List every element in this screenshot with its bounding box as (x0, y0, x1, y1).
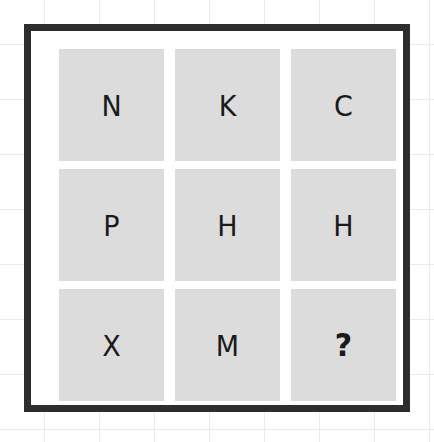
cell-r3c3-missing[interactable]: ? (291, 289, 396, 401)
puzzle-frame: N K C P H H X M (24, 24, 410, 412)
cell-r2c3[interactable]: H (291, 169, 396, 281)
cell-r1c2[interactable]: K (175, 49, 280, 161)
cell-glyph-r3c2: M (216, 331, 239, 360)
cell-r2c1[interactable]: P (59, 169, 164, 281)
cell-r1c3[interactable]: C (291, 49, 396, 161)
cell-glyph-r3c1: X (102, 331, 121, 360)
cell-glyph-r2c2: H (217, 211, 237, 240)
cell-r3c1[interactable]: X (59, 289, 164, 401)
cell-r1c1[interactable]: N (59, 49, 164, 161)
letter-matrix-grid: N K C P H H X M (59, 49, 395, 401)
cell-glyph-r1c3: C (334, 91, 353, 120)
cell-glyph-r1c2: K (219, 91, 237, 120)
cell-glyph-r2c1: P (103, 211, 119, 240)
cell-glyph-r2c3: H (333, 211, 353, 240)
cell-glyph-r3c3-question-mark: ? (335, 329, 352, 361)
puzzle-canvas: N K C P H H X M (0, 0, 434, 442)
cell-r2c2[interactable]: H (175, 169, 280, 281)
cell-r3c2[interactable]: M (175, 289, 280, 401)
cell-glyph-r1c1: N (101, 91, 121, 120)
